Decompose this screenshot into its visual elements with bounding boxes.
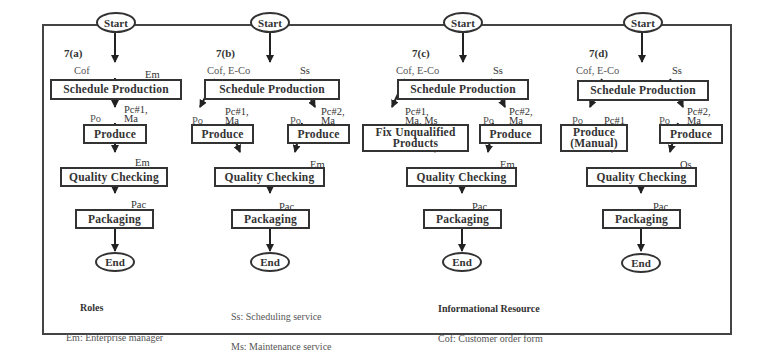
quality-checking-step: Quality Checking — [586, 167, 697, 187]
schedule-production-step: Schedule Production — [397, 79, 529, 100]
packaging-step: Packaging — [423, 209, 502, 229]
start-node: Start — [96, 12, 136, 33]
role-label: Pc#2, Ma — [509, 107, 533, 125]
role-label: Ss — [493, 66, 503, 75]
informational-resource-legend: Informational Resource Cof: Customer ord… — [438, 284, 590, 353]
panel-title: 7(b) — [216, 47, 235, 59]
start-node: Start — [250, 12, 290, 33]
quality-checking-step: Quality Checking — [60, 167, 168, 187]
schedule-production-step: Schedule Production — [204, 79, 340, 100]
role-label: Pac — [131, 200, 146, 209]
legend-heading: Informational Resource — [438, 304, 590, 314]
quality-checking-step: Quality Checking — [406, 167, 517, 187]
end-node: End — [250, 252, 290, 272]
role-label: Em — [145, 70, 160, 79]
produce-step-left: Produce — [191, 124, 254, 144]
role-label: Pc#1, Ma — [124, 105, 148, 123]
produce-step-right: Produce — [479, 124, 542, 144]
legend-item: Em: Enterprise manager — [66, 333, 177, 343]
legend-heading: Roles — [66, 303, 177, 313]
produce-step-right: Produce — [659, 124, 723, 144]
role-label: Pc#2, Ma — [321, 107, 345, 125]
role-label: Ss — [672, 66, 682, 75]
input-label: Po — [90, 114, 101, 123]
end-node: End — [95, 252, 135, 272]
fix-unqualified-products-step: Fix Unqualified Products — [362, 124, 469, 152]
packaging-step: Packaging — [602, 209, 681, 229]
start-node: Start — [443, 12, 483, 33]
quality-checking-step: Quality Checking — [214, 167, 325, 187]
input-label: Cof, E-Co — [396, 66, 439, 75]
input-label: Cof, E-Co — [207, 66, 250, 75]
produce-step-right: Produce — [287, 124, 350, 144]
services-legend: Ss: Scheduling service Ms: Maintenance s… — [231, 292, 332, 353]
role-label: Ss — [300, 66, 310, 75]
packaging-step: Packaging — [75, 209, 154, 229]
role-label: Pc#1, Ma — [225, 107, 249, 125]
packaging-step: Packaging — [231, 209, 310, 229]
role-label: Em — [135, 158, 150, 167]
roles-legend: Roles Em: Enterprise manager Pc: Product… — [66, 283, 177, 353]
schedule-production-step: Schedule Production — [50, 79, 182, 100]
input-label: Cof, E-Co — [576, 66, 619, 75]
start-node: Start — [623, 12, 663, 33]
produce-manual-step: Produce (Manual) — [560, 124, 628, 152]
panel-title: 7(c) — [412, 47, 430, 59]
produce-step: Produce — [83, 124, 147, 144]
panel-title: 7(d) — [589, 47, 608, 59]
legend-item: Ss: Scheduling service — [231, 312, 332, 322]
schedule-production-step: Schedule Production — [577, 80, 709, 101]
end-node: End — [621, 253, 661, 273]
input-label: Cof — [74, 66, 90, 75]
role-label: Pc#2, Ma — [687, 107, 711, 125]
legend-item: Ms: Maintenance service — [231, 342, 332, 352]
process-diagram-figure: 7(a) Start Cof Em Schedule Production Po… — [0, 0, 772, 353]
panel-title: 7(a) — [64, 47, 82, 59]
end-node: End — [442, 252, 482, 272]
role-label: Pc#1, Ma, Ms — [405, 107, 438, 125]
legend-item: Cof: Customer order form — [438, 334, 590, 344]
